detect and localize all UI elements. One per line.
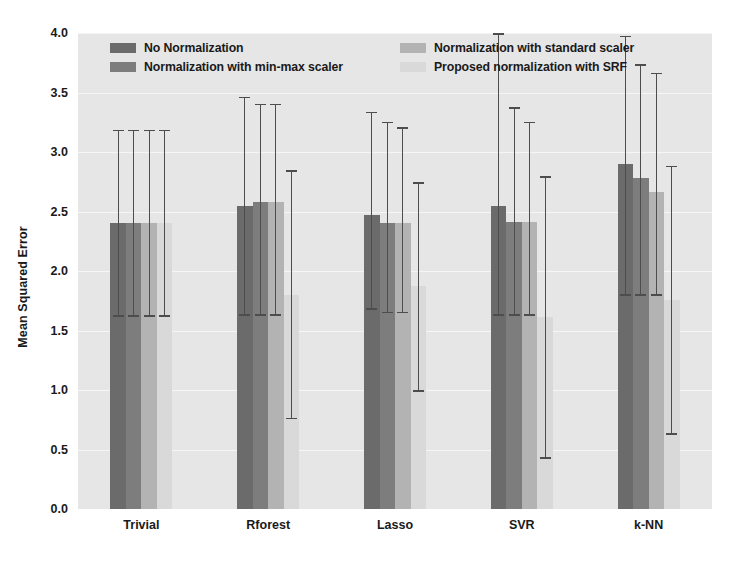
error-bar-line xyxy=(291,171,292,419)
error-bar-line xyxy=(260,104,261,315)
error-bar-cap-upper xyxy=(366,112,377,114)
y-tick-label: 1.0 xyxy=(51,383,68,397)
legend-label: No Normalization xyxy=(144,41,244,55)
y-tick-label: 2.5 xyxy=(51,205,68,219)
error-bar-line xyxy=(498,34,499,315)
error-bar-cap-lower xyxy=(509,314,520,316)
y-tick-label: 0.0 xyxy=(51,502,68,516)
error-bar-cap-lower xyxy=(524,314,535,316)
error-bar-cap-lower xyxy=(113,315,124,317)
y-tick-label: 1.5 xyxy=(51,324,68,338)
y-tick-label: 0.5 xyxy=(51,443,68,457)
y-tick-label: 2.0 xyxy=(51,264,68,278)
legend-swatch xyxy=(110,62,136,72)
plot-area xyxy=(78,33,712,509)
y-tick-label: 3.0 xyxy=(51,145,68,159)
error-bar-line xyxy=(640,65,641,295)
error-bar-line xyxy=(402,128,403,312)
legend-label: Normalization with standard scaler xyxy=(434,41,634,55)
legend-item[interactable]: Normalization with min-max scaler xyxy=(110,57,400,76)
legend-label: Normalization with min-max scaler xyxy=(144,60,343,74)
bar-group xyxy=(618,33,680,509)
error-bar-cap-lower xyxy=(540,457,551,459)
error-bar-cap-lower xyxy=(651,294,662,296)
error-bar-line xyxy=(545,177,546,458)
bar-group xyxy=(110,33,172,509)
error-bar-cap-upper xyxy=(397,127,408,129)
error-bar-cap-lower xyxy=(635,294,646,296)
bar-group xyxy=(491,33,553,509)
error-bar-cap-lower xyxy=(128,315,139,317)
x-tick-label: SVR xyxy=(509,518,535,532)
chart-legend: No NormalizationNormalization with stand… xyxy=(110,38,610,76)
error-bar-cap-upper xyxy=(144,130,155,132)
legend-label: Proposed normalization with SRF xyxy=(434,60,627,74)
error-bar-cap-upper xyxy=(382,122,393,124)
y-tick-label: 3.5 xyxy=(51,86,68,100)
error-bar-line xyxy=(656,73,657,294)
x-tick-label: Trivial xyxy=(123,518,159,532)
error-bar-cap-upper xyxy=(413,182,424,184)
error-bar-line xyxy=(118,131,119,317)
error-bar-line xyxy=(275,104,276,315)
y-axis-title-text: Mean Squared Error xyxy=(16,226,30,347)
y-axis-title: Mean Squared Error xyxy=(10,0,36,573)
error-bar-cap-lower xyxy=(397,312,408,314)
error-bar-line xyxy=(418,183,419,391)
y-axis-tick-labels: 0.00.51.01.52.02.53.03.54.0 xyxy=(36,33,74,509)
error-bar-line xyxy=(529,122,530,315)
error-bar-cap-upper xyxy=(239,97,250,99)
error-bar-line xyxy=(244,97,245,315)
legend-item[interactable]: No Normalization xyxy=(110,38,400,57)
error-bar-line xyxy=(387,122,388,312)
x-axis-tick-labels: TrivialRforestLassoSVRk-NN xyxy=(78,512,712,538)
error-bar-cap-upper xyxy=(113,130,124,132)
legend-swatch xyxy=(400,62,426,72)
error-bar-cap-lower xyxy=(144,315,155,317)
error-bar-cap-lower xyxy=(366,308,377,310)
error-bar-cap-upper xyxy=(159,130,170,132)
legend-swatch xyxy=(400,43,426,53)
error-bar-cap-lower xyxy=(493,314,504,316)
error-bar-line xyxy=(514,108,515,315)
y-tick-label: 4.0 xyxy=(51,26,68,40)
bar-chart-figure: Mean Squared Error 0.00.51.01.52.02.53.0… xyxy=(0,0,730,573)
error-bar-cap-upper xyxy=(128,130,139,132)
error-bar-line xyxy=(149,131,150,317)
legend-item[interactable]: Normalization with standard scaler xyxy=(400,38,690,57)
error-bar-cap-lower xyxy=(255,314,266,316)
x-tick-label: Rforest xyxy=(246,518,290,532)
bar-group xyxy=(364,33,426,509)
x-tick-label: Lasso xyxy=(377,518,413,532)
error-bar-cap-lower xyxy=(666,433,677,435)
legend-swatch xyxy=(110,43,136,53)
error-bar-cap-upper xyxy=(286,170,297,172)
error-bar-cap-upper xyxy=(270,104,281,106)
bar-group xyxy=(237,33,299,509)
error-bar-cap-lower xyxy=(620,294,631,296)
error-bar-cap-lower xyxy=(239,314,250,316)
error-bar-cap-lower xyxy=(286,418,297,420)
error-bar-cap-lower xyxy=(413,390,424,392)
x-tick-label: k-NN xyxy=(634,518,663,532)
error-bar-cap-upper xyxy=(524,122,535,124)
error-bar-line xyxy=(133,131,134,317)
error-bar-line xyxy=(164,131,165,317)
error-bar-cap-upper xyxy=(255,104,266,106)
error-bar-cap-lower xyxy=(382,312,393,314)
error-bar-cap-upper xyxy=(509,107,520,109)
error-bar-cap-upper xyxy=(540,176,551,178)
legend-item[interactable]: Proposed normalization with SRF xyxy=(400,57,690,76)
error-bar-line xyxy=(671,166,672,434)
error-bar-cap-lower xyxy=(270,314,281,316)
error-bar-line xyxy=(371,113,372,309)
error-bar-cap-upper xyxy=(493,33,504,35)
error-bar-cap-upper xyxy=(666,166,677,168)
error-bar-cap-lower xyxy=(159,315,170,317)
